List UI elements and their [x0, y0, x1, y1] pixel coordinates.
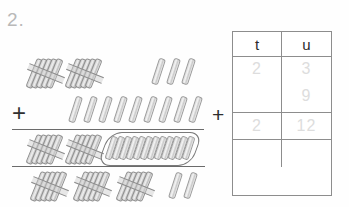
cell-value-tens-1: 2 — [252, 60, 262, 78]
addition-operator-right: + — [212, 104, 224, 125]
ten-bundle — [33, 171, 67, 201]
units-cell-stack: 3 9 — [302, 57, 312, 112]
ten-bundle — [68, 58, 102, 88]
addition-operator-left: + — [12, 101, 26, 125]
unit-stick — [98, 96, 113, 124]
unit-stick — [143, 96, 158, 124]
table-row[interactable]: 3 9 — [282, 57, 331, 113]
ten-bundle — [119, 171, 153, 201]
tens-cell-stack: 2 — [252, 57, 262, 112]
worksheet-canvas: 2. — [0, 0, 349, 207]
table-row[interactable] — [233, 140, 282, 167]
unit-stick — [168, 172, 183, 200]
unit-stick — [83, 96, 98, 124]
unit-stick — [151, 58, 166, 86]
cell-value-units-1-top: 3 — [302, 60, 312, 78]
unit-stick — [173, 96, 188, 124]
table-row[interactable]: 2 — [233, 113, 282, 140]
unit-stick — [166, 58, 181, 86]
ten-bundle — [29, 58, 63, 88]
header-label-tens: t — [255, 36, 259, 53]
cell-value-units-1-bottom: 9 — [302, 87, 312, 105]
header-label-units: u — [302, 36, 310, 53]
ten-bundle — [29, 134, 63, 164]
table-row[interactable]: 2 — [233, 57, 282, 113]
table-row[interactable] — [282, 140, 331, 167]
ten-bundle — [76, 171, 110, 201]
unit-stick — [128, 96, 143, 124]
table-header-tens: t — [233, 32, 282, 57]
unit-stick — [181, 58, 196, 86]
unit-stick — [158, 96, 173, 124]
unit-stick — [183, 172, 198, 200]
ten-bundle — [68, 134, 102, 164]
place-value-table: t u 2 3 9 2 12 — [232, 31, 332, 196]
unit-stick — [113, 96, 128, 124]
table-row[interactable]: 12 — [282, 113, 331, 140]
addition-rule-bottom — [12, 166, 205, 167]
unit-stick — [188, 96, 203, 124]
unit-stick — [68, 96, 83, 124]
cell-value-tens-2: 2 — [252, 117, 262, 135]
cell-value-units-2: 12 — [297, 117, 317, 135]
addition-rule-top — [12, 129, 204, 130]
problem-number: 2. — [7, 10, 25, 29]
table-header-units: u — [282, 32, 331, 57]
